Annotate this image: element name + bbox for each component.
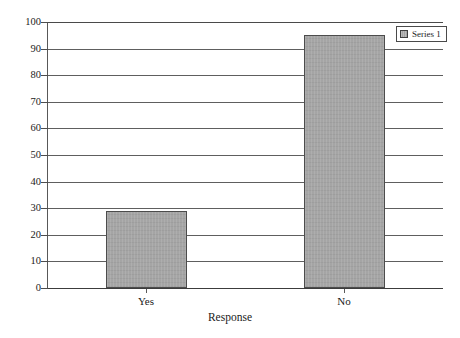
- y-axis-label-wrap: 10: [0, 256, 41, 266]
- y-axis-label: 70: [3, 97, 41, 107]
- y-axis-label-wrap: 80: [0, 70, 41, 80]
- y-axis-label: 40: [3, 177, 41, 187]
- bar-yes: [106, 211, 187, 288]
- y-axis-label: 20: [3, 230, 41, 240]
- bar-chart: 1009080706050403020100 YesNo Response Se…: [0, 0, 460, 338]
- y-axis-label: 30: [3, 203, 41, 213]
- y-axis-label: 60: [3, 123, 41, 133]
- y-axis-label: 100: [3, 17, 41, 27]
- x-axis-tick: [146, 289, 147, 293]
- y-axis-label-wrap: 0: [0, 283, 41, 293]
- x-axis-tick: [344, 289, 345, 293]
- legend-swatch-icon: [400, 30, 408, 38]
- y-axis-tick: [41, 261, 48, 262]
- chart-title-remnant: [0, 0, 460, 9]
- y-axis-label-wrap: 30: [0, 203, 41, 213]
- y-axis-label-wrap: 40: [0, 177, 41, 187]
- y-axis-tick: [41, 49, 48, 50]
- y-axis-tick: [41, 155, 48, 156]
- x-axis-label: Yes: [86, 294, 206, 308]
- y-axis-tick: [41, 102, 48, 103]
- y-axis-label-wrap: 60: [0, 123, 41, 133]
- y-axis-label: 10: [3, 256, 41, 266]
- bar-no: [304, 35, 385, 288]
- x-axis-title: Response: [0, 310, 460, 324]
- chart-legend: Series 1: [396, 26, 447, 42]
- y-axis-label: 90: [3, 44, 41, 54]
- x-axis-line: [47, 288, 443, 289]
- y-axis-tick: [41, 75, 48, 76]
- y-axis-tick: [41, 128, 48, 129]
- y-axis-tick: [41, 208, 48, 209]
- y-axis-label-wrap: 90: [0, 44, 41, 54]
- y-axis-tick: [41, 288, 48, 289]
- y-axis-label-wrap: 50: [0, 150, 41, 160]
- plot-area: [47, 22, 443, 288]
- y-axis-tick: [41, 182, 48, 183]
- y-axis-label-wrap: 20: [0, 230, 41, 240]
- y-axis-tick: [41, 22, 48, 23]
- gridline: [47, 22, 443, 23]
- y-axis-label-wrap: 100: [0, 17, 41, 27]
- y-axis-label: 50: [3, 150, 41, 160]
- y-axis-label: 0: [3, 283, 41, 293]
- x-axis-label: No: [284, 294, 404, 308]
- legend-label: Series 1: [412, 29, 441, 39]
- y-axis-tick: [41, 235, 48, 236]
- y-axis-label: 80: [3, 70, 41, 80]
- y-axis-label-wrap: 70: [0, 97, 41, 107]
